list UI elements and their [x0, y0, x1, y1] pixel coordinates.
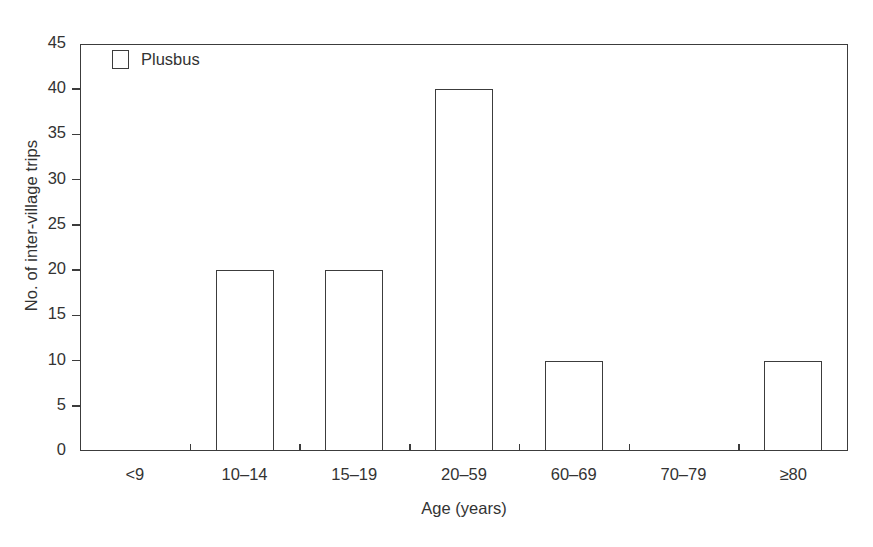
y-axis-tick-label: 35: [48, 123, 66, 142]
x-axis-tick-mark: [409, 444, 411, 451]
x-axis-tick-label: 15–19: [331, 465, 377, 484]
y-axis-tick-label: 15: [48, 304, 66, 323]
x-axis-tick-label: <9: [125, 465, 144, 484]
x-axis-tick-mark: [519, 444, 521, 451]
y-axis-tick-mark: [72, 224, 80, 226]
x-axis-tick-label: 60–69: [551, 465, 597, 484]
y-axis-tick-label: 30: [48, 169, 66, 188]
chart-legend: Plusbus: [112, 50, 200, 69]
bar[interactable]: [545, 361, 603, 451]
bar[interactable]: [216, 270, 274, 451]
bar-slot: [738, 44, 848, 451]
bar-slot: [519, 44, 629, 451]
y-axis-tick-mark: [72, 315, 80, 317]
y-axis-tick-label: 45: [48, 33, 66, 52]
x-axis-tick-label: 10–14: [222, 465, 268, 484]
bar[interactable]: [435, 89, 493, 451]
x-axis-tick-label: 20–59: [441, 465, 487, 484]
x-axis-title: Age (years): [80, 499, 848, 518]
bar-slot: [80, 44, 190, 451]
y-axis-tick-mark: [72, 269, 80, 271]
y-axis-tick-label: 5: [57, 395, 66, 414]
bar-chart-figure: No. of inter-village trips 0510152025303…: [0, 0, 873, 547]
bar-slot: [629, 44, 739, 451]
bars-layer: [80, 44, 848, 451]
y-axis-title: No. of inter-village trips: [14, 0, 48, 451]
bar[interactable]: [325, 270, 383, 451]
open-square-icon: [112, 50, 129, 69]
bar-slot: [299, 44, 409, 451]
bar[interactable]: [764, 361, 822, 451]
y-axis-tick-label: 40: [48, 78, 66, 97]
y-axis-tick-label: 25: [48, 214, 66, 233]
y-axis-tick-label: 0: [57, 440, 66, 459]
bar-slot: [409, 44, 519, 451]
y-axis-tick-mark: [72, 405, 80, 407]
bar-slot: [190, 44, 300, 451]
y-axis-tick-label: 20: [48, 259, 66, 278]
x-axis-tick-mark: [738, 444, 740, 451]
y-axis-tick-mark: [72, 88, 80, 90]
legend-entry-label: Plusbus: [141, 50, 200, 69]
y-axis-tick-mark: [72, 179, 80, 181]
x-axis-tick-mark: [629, 444, 631, 451]
x-axis-tick-label: 70–79: [660, 465, 706, 484]
x-axis-tick-label: ≥80: [779, 465, 806, 484]
x-axis-tick-mark: [299, 444, 301, 451]
y-axis-tick-mark: [72, 360, 80, 362]
y-axis-tick-mark: [72, 134, 80, 136]
x-axis-tick-mark: [190, 444, 192, 451]
y-axis-tick-label: 10: [48, 350, 66, 369]
